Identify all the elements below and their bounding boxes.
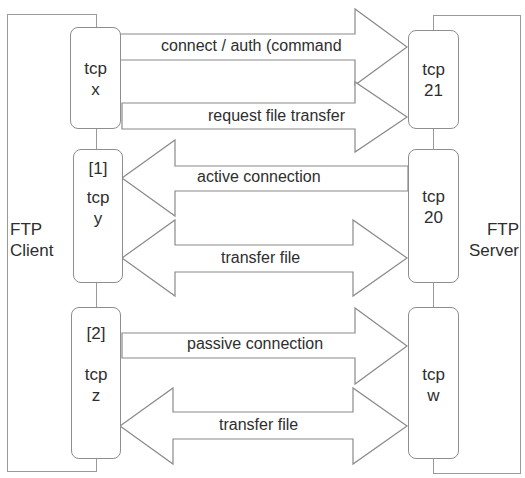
server-port-tcp-21: tcp 21 xyxy=(408,30,459,129)
client-port-tcp-x: tcp x xyxy=(70,27,121,129)
port-number: 20 xyxy=(409,207,458,228)
port-number: x xyxy=(71,79,120,100)
connect-auth-label-clipped: channel) xyxy=(230,58,350,61)
port-protocol: tcp xyxy=(409,59,458,80)
port-protocol: tcp xyxy=(72,364,120,385)
port-protocol: tcp xyxy=(71,58,120,79)
client-port-tcp-y: [1] tcp y xyxy=(73,149,123,283)
port-number: z xyxy=(72,385,120,406)
server-port-tcp-20: tcp 20 xyxy=(408,149,459,283)
connect-auth-label-line2: channel) xyxy=(250,58,350,61)
port-number: y xyxy=(74,208,122,229)
port-protocol: tcp xyxy=(74,187,122,208)
port-number: w xyxy=(409,385,458,406)
active-connection-label: active connection xyxy=(197,167,321,187)
port-protocol: tcp xyxy=(409,364,458,385)
passive-connection-label: passive connection xyxy=(187,334,323,354)
port-number: 21 xyxy=(409,80,458,101)
port-footnote-tag: [2] xyxy=(72,323,120,344)
request-file-transfer-label: request file transfer xyxy=(208,106,345,126)
connect-auth-label: connect / auth (command xyxy=(161,36,342,56)
transfer-file-label-1: transfer file xyxy=(221,248,300,268)
server-port-tcp-w: tcp w xyxy=(408,307,459,459)
transfer-file-label-2: transfer file xyxy=(219,415,298,435)
port-protocol: tcp xyxy=(409,186,458,207)
client-port-tcp-z: [2] tcp z xyxy=(71,307,121,459)
port-footnote-tag: [1] xyxy=(74,158,122,179)
